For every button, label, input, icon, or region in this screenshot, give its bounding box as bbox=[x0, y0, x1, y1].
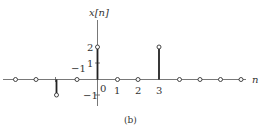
y-tick-label-neg1: −1 bbox=[83, 90, 98, 101]
marker-n-1 bbox=[116, 78, 120, 82]
y-tick-label-2: 2 bbox=[87, 42, 93, 53]
x-tick-label-1: 1 bbox=[114, 85, 120, 96]
y-axis-label: x[n] bbox=[89, 7, 109, 18]
x-tick-label-0: 0 bbox=[100, 83, 106, 94]
x-tick-label-3: 3 bbox=[156, 85, 162, 96]
marker-n-neg3 bbox=[34, 78, 38, 82]
marker-n-5 bbox=[198, 78, 202, 82]
y-tick-label-1: 1 bbox=[87, 58, 93, 69]
x-axis-label: n bbox=[252, 74, 258, 85]
figure-caption: (b) bbox=[124, 115, 137, 125]
stem-plot: x[n] n 2 1 −1 −1 0 1 2 3 (b) bbox=[0, 0, 266, 133]
marker-n-3 bbox=[157, 45, 161, 49]
marker-n-neg1 bbox=[75, 78, 79, 82]
marker-n-6 bbox=[219, 78, 223, 82]
marker-n-4 bbox=[178, 78, 182, 82]
x-tick-label-neg1: −1 bbox=[71, 63, 86, 74]
marker-n-0 bbox=[96, 45, 100, 49]
x-tick-label-2: 2 bbox=[135, 85, 141, 96]
marker-n-neg2 bbox=[55, 93, 59, 97]
marker-n-7 bbox=[239, 78, 243, 82]
marker-n-neg4 bbox=[14, 78, 18, 82]
marker-n-2 bbox=[136, 78, 140, 82]
